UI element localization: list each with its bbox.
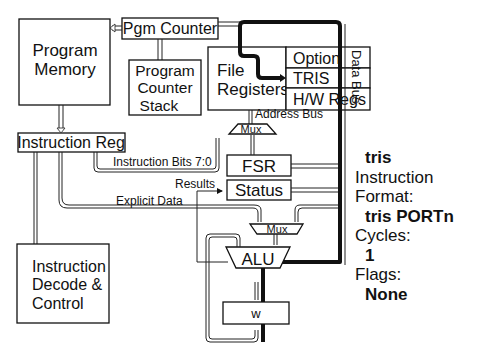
decode-label-2: Decode & [32,276,103,293]
pgm-counter-label: Pgm Counter [123,20,218,37]
alu-mux-label: Mux [267,223,288,235]
data-bus-label: Data Bus [349,50,364,104]
fsr-label: FSR [242,157,276,176]
option-label: Option [293,50,340,67]
address-bus-label: Address Bus [255,107,323,121]
memory-to-ir-arrow-icon [57,128,65,133]
fsr-to-mux-wire [251,135,254,155]
format-value: tris PORTn [355,207,490,227]
file-registers-label-2: Registers [217,80,289,99]
status-bus-wire [291,188,338,192]
instruction-name: tris [355,148,490,168]
alu-label: ALU [241,250,274,269]
bus-to-mux-wire [295,205,338,222]
explicit-data-label: Explicit Data [116,194,183,208]
status-label: Status [235,181,283,200]
flags-value: None [355,285,490,305]
instruction-bits-label: Instruction Bits 7:0 [113,155,212,169]
mux-to-alu-wire [274,234,277,245]
instruction-info-panel: tris Instruction Format: tris PORTn Cycl… [355,148,490,304]
pc-stack-label-1: Program [135,62,194,79]
cycles-value: 1 [355,246,490,266]
flags-label: Flags: [355,265,490,285]
pc-to-memory-arrow-icon [110,24,115,32]
decode-label-3: Control [32,295,84,312]
w-label: w [250,306,261,321]
decode-label-1: Instruction [32,258,106,275]
bus-to-pc-wire [218,22,240,26]
instruction-reg-label: Instruction Reg [17,134,125,151]
format-label: Instruction Format: [355,168,490,207]
alu-to-w-wire [255,282,258,300]
pc-stack-label-3: Stack [140,97,179,114]
pc-stack-label-2: Counter [137,79,192,96]
memory-to-ir-wire [59,105,63,130]
file-registers-label-1: File [217,61,244,80]
fsr-bus-wire [291,164,338,168]
program-memory-label-2: Memory [34,60,96,79]
pc-stack-wire [158,39,162,60]
program-memory-label-1: Program [32,41,97,60]
results-label: Results [175,177,215,191]
address-bus-wire [249,110,252,124]
address-mux-label: Mux [241,123,262,135]
tris-label: TRIS [293,70,329,87]
cycles-label: Cycles: [355,226,490,246]
